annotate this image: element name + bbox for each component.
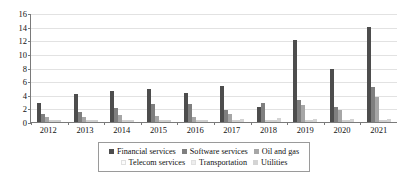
x-axis-labels: 2012201320142015201620172018201920202021 (30, 126, 397, 135)
x-axis-tick-mark (360, 122, 361, 125)
legend-item[interactable]: Financial services (106, 146, 179, 157)
legend-swatch-icon (182, 149, 187, 154)
x-axis-tick-mark (251, 122, 252, 125)
bar (387, 119, 391, 122)
x-axis-tick-label: 2021 (360, 126, 397, 135)
bar-group (68, 14, 105, 122)
x-axis-tick-label: 2013 (67, 126, 104, 135)
bar (94, 120, 98, 122)
bar (313, 119, 317, 122)
bar-group (214, 14, 251, 122)
x-axis-tick-label: 2012 (30, 126, 67, 135)
bar-groups (31, 14, 397, 122)
bar (350, 119, 354, 122)
x-axis-tick-label: 2018 (250, 126, 287, 135)
x-axis-tick-mark (104, 122, 105, 125)
bar-group (177, 14, 214, 122)
x-axis-tick-mark (287, 122, 288, 125)
plot-area: 0246810121416 (30, 14, 397, 123)
x-axis-tick-mark (68, 122, 69, 125)
x-axis-tick-label: 2019 (287, 126, 324, 135)
bar (375, 97, 379, 122)
legend-item[interactable]: Transportation (188, 157, 250, 168)
legend-swatch-icon (253, 160, 258, 165)
x-axis-tick-label: 2020 (324, 126, 361, 135)
bar (57, 120, 61, 122)
bar (277, 118, 281, 122)
bar-group (287, 14, 324, 122)
legend-label: Telecom services (129, 157, 185, 168)
bar (130, 120, 134, 122)
bar (204, 120, 208, 122)
x-axis-tick-label: 2015 (140, 126, 177, 135)
legend-label: Financial services (117, 146, 176, 157)
legend-label: Utilities (261, 157, 287, 168)
legend-swatch-icon (109, 149, 114, 154)
x-axis-tick-mark (31, 122, 32, 125)
bar-group (360, 14, 397, 122)
bar-group (324, 14, 361, 122)
legend-row: Financial servicesSoftware servicesOil a… (101, 146, 307, 157)
legend-swatch-icon (191, 160, 196, 165)
x-axis-tick-mark (141, 122, 142, 125)
legend-row: Telecom servicesTransportationUtilities (101, 157, 307, 168)
x-axis-tick-mark (177, 122, 178, 125)
x-axis-tick-mark (324, 122, 325, 125)
bar-chart: 0246810121416 20122013201420152016201720… (0, 0, 406, 191)
legend-swatch-icon (254, 149, 259, 154)
legend-label: Software services (190, 146, 248, 157)
legend-label: Oil and gas (262, 146, 299, 157)
bar (240, 119, 244, 122)
bar (167, 120, 171, 122)
legend-item[interactable]: Telecom services (118, 157, 188, 168)
bar-group (104, 14, 141, 122)
x-axis-tick-label: 2017 (214, 126, 251, 135)
x-axis-tick-label: 2014 (103, 126, 140, 135)
legend-item[interactable]: Utilities (250, 157, 290, 168)
x-axis-tick-mark (214, 122, 215, 125)
legend-swatch-icon (121, 160, 126, 165)
chart-legend: Financial servicesSoftware servicesOil a… (98, 142, 310, 172)
legend-label: Transportation (199, 157, 247, 168)
bar-group (141, 14, 178, 122)
bar-group (31, 14, 68, 122)
x-axis-tick-label: 2016 (177, 126, 214, 135)
legend-item[interactable]: Software services (179, 146, 251, 157)
legend-item[interactable]: Oil and gas (251, 146, 302, 157)
bar-group (251, 14, 288, 122)
